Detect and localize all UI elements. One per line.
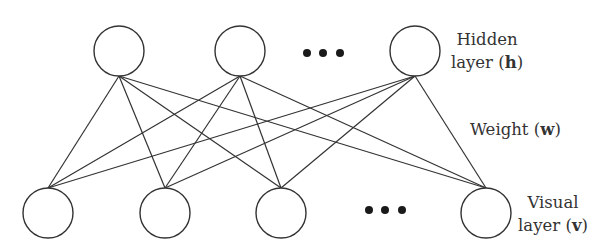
layer-nodes: [23, 26, 511, 238]
weight-edge: [119, 76, 486, 188]
visual-node: [23, 188, 73, 238]
weight-label-prefix: Weight (: [470, 120, 540, 139]
weight-edge: [48, 76, 415, 188]
hidden-ellipsis-dot: [303, 49, 311, 57]
visual-layer-label-line2: layer (v): [512, 214, 593, 237]
ellipsis-dots: [303, 49, 406, 214]
hidden-node: [215, 26, 265, 76]
weight-label-suffix: ): [554, 120, 560, 139]
hidden-ellipsis-dot: [319, 49, 327, 57]
visual-layer-label-suffix: ): [581, 216, 587, 235]
hidden-node: [94, 26, 144, 76]
hidden-layer-label-line2: layer (h): [446, 51, 528, 74]
hidden-layer-label: Hidden layer (h): [446, 28, 528, 74]
hidden-node: [390, 26, 440, 76]
weight-edge: [240, 76, 281, 188]
hidden-ellipsis-dot: [336, 49, 344, 57]
weight-edge: [240, 76, 486, 188]
visual-node: [461, 188, 511, 238]
visual-layer-label-prefix: layer (: [518, 216, 572, 235]
visual-layer-label-line1: Visual: [512, 191, 593, 214]
weight-edge: [119, 76, 165, 188]
visual-layer-label: Visual layer (v): [512, 191, 593, 237]
weight-edges: [48, 76, 486, 188]
hidden-layer-label-suffix: ): [517, 53, 523, 72]
hidden-layer-label-line1: Hidden: [446, 28, 528, 51]
hidden-layer-label-prefix: layer (: [451, 53, 505, 72]
visual-node: [140, 188, 190, 238]
weight-label: Weight (w): [470, 118, 561, 141]
weight-edge: [48, 76, 119, 188]
visual-ellipsis-dot: [381, 206, 389, 214]
visual-ellipsis-dot: [398, 206, 406, 214]
weight-symbol: w: [540, 120, 554, 139]
visual-node: [256, 188, 306, 238]
hidden-layer-symbol: h: [505, 53, 517, 72]
visual-ellipsis-dot: [365, 206, 373, 214]
